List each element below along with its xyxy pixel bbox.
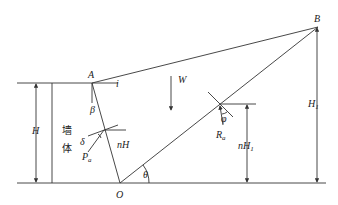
nh1-label: nH1 xyxy=(238,140,254,153)
pa-label: Pa xyxy=(81,151,92,164)
backfill-surface-line xyxy=(92,27,318,83)
h-label: H xyxy=(31,125,40,136)
beta-label: β xyxy=(89,104,95,115)
ra-label: Ra xyxy=(215,129,226,142)
retaining-wall-diagram: A B O i β W H 墙 体 δ Pa nH θ φ Ra nH1 H1 xyxy=(0,0,338,205)
wall-label-1: 墙 xyxy=(62,124,72,136)
point-o-label: O xyxy=(116,189,123,200)
i-label: i xyxy=(116,78,119,89)
slip-plane-line xyxy=(120,27,318,183)
delta-label: δ xyxy=(80,136,85,147)
w-label: W xyxy=(178,74,188,85)
wall-label-2: 体 xyxy=(62,143,72,154)
theta-label: θ xyxy=(143,169,148,180)
nh-label: nH xyxy=(117,139,130,150)
wall-normal-line xyxy=(88,125,118,136)
point-b-label: B xyxy=(314,13,320,24)
phi-label: φ xyxy=(221,113,227,124)
point-a-label: A xyxy=(87,69,95,80)
